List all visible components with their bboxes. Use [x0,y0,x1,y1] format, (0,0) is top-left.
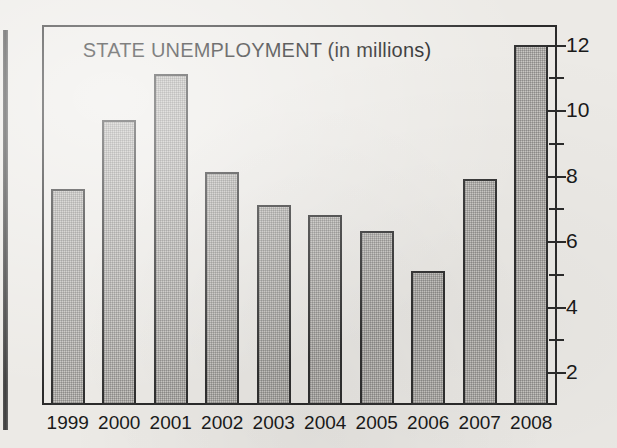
y-tick-major [547,45,566,47]
y-tick-minor [549,274,564,276]
y-tick-minor [549,339,564,341]
y-tick-major [547,372,566,374]
y-tick-minor [549,143,564,145]
chart-page: STATE UNEMPLOYMENT (in millions) 2468101… [0,0,617,448]
bar [51,189,85,405]
x-tick-label: 1999 [47,412,89,434]
bar [308,215,342,405]
bar [102,120,136,405]
x-tick-label: 2005 [356,412,398,434]
x-tick-label: 2000 [98,412,140,434]
y-tick-label: 6 [566,229,578,253]
x-tick-label: 2004 [304,412,346,434]
bar [463,179,497,405]
x-tick-label: 2006 [407,412,449,434]
y-tick-major [547,110,566,112]
bar [257,205,291,405]
bar [205,172,239,405]
y-tick-minor [549,77,564,79]
y-tick-label: 2 [566,360,578,384]
y-tick-minor [549,208,564,210]
bar [154,74,188,405]
y-tick-label: 4 [566,295,578,319]
y-tick-label: 8 [566,164,578,188]
y-tick-label: 12 [566,33,589,57]
y-tick-label: 10 [566,98,589,122]
y-tick-major [547,307,566,309]
y-tick-major [547,241,566,243]
x-tick-label: 2007 [459,412,501,434]
bar [411,271,445,405]
y-tick-major [547,176,566,178]
bar [514,45,548,405]
bar-chart: STATE UNEMPLOYMENT (in millions) [42,25,557,405]
x-tick-label: 2001 [150,412,192,434]
x-tick-label: 2003 [253,412,295,434]
x-tick-label: 2002 [201,412,243,434]
chart-title: STATE UNEMPLOYMENT (in millions) [42,39,472,62]
page-gutter-edge [3,30,8,430]
plot-area [42,25,557,405]
bar [360,231,394,405]
x-tick-label: 2008 [510,412,552,434]
